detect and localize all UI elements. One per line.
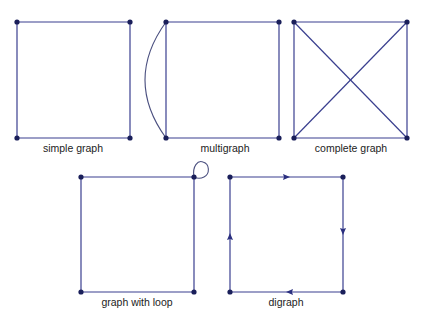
graph-types-diagram: simple graph multigraph complete graph xyxy=(0,0,422,328)
arrow-up-icon xyxy=(227,233,233,240)
arrow-left-icon xyxy=(286,289,293,295)
complete-graph-label: complete graph xyxy=(315,142,388,154)
vertex xyxy=(227,289,232,294)
vertex xyxy=(78,174,83,179)
simple-graph: simple graph xyxy=(14,19,132,154)
simple-graph-label: simple graph xyxy=(43,142,103,154)
parallel-edge-arc xyxy=(145,22,166,138)
vertex xyxy=(14,135,19,140)
digraph: digraph xyxy=(227,174,346,308)
vertex xyxy=(291,19,296,24)
multigraph-label: multigraph xyxy=(200,142,249,154)
vertex xyxy=(340,174,345,179)
multigraph: multigraph xyxy=(145,19,282,154)
vertex xyxy=(404,135,409,140)
graph-with-loop: graph with loop xyxy=(78,162,208,308)
vertex xyxy=(340,289,345,294)
vertex xyxy=(78,289,83,294)
vertex xyxy=(163,19,168,24)
vertex xyxy=(291,135,296,140)
vertex xyxy=(191,174,196,179)
arrow-down-icon xyxy=(340,228,346,235)
vertex xyxy=(276,135,281,140)
vertex xyxy=(163,135,168,140)
vertex xyxy=(276,19,281,24)
vertex xyxy=(227,174,232,179)
arrow-right-icon xyxy=(283,174,290,180)
vertex xyxy=(191,289,196,294)
graph-with-loop-label: graph with loop xyxy=(101,296,172,308)
vertex xyxy=(14,19,19,24)
vertex xyxy=(127,135,132,140)
vertex xyxy=(127,19,132,24)
vertex xyxy=(404,19,409,24)
digraph-label: digraph xyxy=(268,296,303,308)
complete-graph: complete graph xyxy=(291,19,409,154)
